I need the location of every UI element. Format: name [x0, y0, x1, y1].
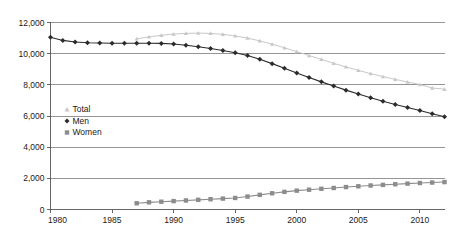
data-point-women: [356, 184, 360, 188]
data-point-women: [442, 180, 446, 184]
series-line-women: [137, 182, 445, 203]
x-tick-label: 1985: [103, 215, 122, 225]
gridlines: [51, 23, 445, 210]
y-axis-tick-labels: 02,0004,0006,0008,00010,00012,000: [19, 18, 45, 215]
data-point-men: [405, 105, 410, 110]
data-point-women: [344, 185, 348, 189]
series-women: [134, 180, 446, 206]
data-point-men: [60, 38, 65, 43]
x-tick-label: 2005: [349, 215, 368, 225]
x-tick-label: 2000: [287, 215, 306, 225]
data-point-men: [257, 57, 262, 62]
data-point-women: [331, 186, 335, 190]
data-point-men: [319, 79, 324, 84]
x-tick-label: 2010: [410, 215, 429, 225]
data-point-women: [233, 196, 237, 200]
data-point-women: [208, 197, 212, 201]
x-axis: [51, 210, 420, 214]
chart-container: 02,0004,0006,0008,00010,00012,000 198019…: [0, 0, 454, 241]
legend-marker-women: [65, 130, 69, 134]
line-chart: 02,0004,0006,0008,00010,00012,000 198019…: [0, 0, 454, 241]
data-point-women: [245, 194, 249, 198]
data-point-men: [122, 41, 127, 46]
y-tick-label: 6,000: [23, 111, 45, 121]
data-point-women: [295, 188, 299, 192]
legend-label-women: Women: [73, 127, 102, 137]
data-point-women: [282, 190, 286, 194]
y-axis: [47, 22, 51, 210]
chart-legend: TotalMenWomen: [65, 104, 102, 137]
data-point-men: [270, 61, 275, 66]
x-tick-label: 1995: [226, 215, 245, 225]
legend-label-total: Total: [73, 104, 91, 114]
data-point-women: [418, 181, 422, 185]
data-point-women: [307, 188, 311, 192]
data-point-women: [171, 199, 175, 203]
data-point-women: [270, 191, 274, 195]
data-point-men: [73, 39, 78, 44]
legend-label-men: Men: [73, 116, 90, 126]
data-point-men: [294, 70, 299, 75]
data-point-women: [221, 196, 225, 200]
legend-marker-total: [65, 107, 70, 112]
data-point-women: [393, 182, 397, 186]
y-tick-label: 8,000: [23, 80, 45, 90]
data-point-men: [48, 35, 53, 40]
series-line-total: [137, 33, 445, 89]
y-tick-label: 10,000: [19, 49, 45, 59]
data-point-men: [147, 41, 152, 46]
data-point-men: [183, 43, 188, 48]
data-point-men: [208, 46, 213, 51]
data-point-women: [196, 198, 200, 202]
data-point-men: [220, 48, 225, 53]
x-axis-tick-labels: 1980198519901995200020052010: [48, 215, 430, 225]
data-point-men: [344, 88, 349, 93]
data-point-men: [442, 114, 447, 119]
data-point-women: [381, 183, 385, 187]
data-point-men: [97, 41, 102, 46]
data-point-men: [282, 66, 287, 71]
y-tick-label: 2,000: [23, 173, 45, 183]
data-point-women: [184, 198, 188, 202]
data-point-men: [159, 41, 164, 46]
data-point-men: [110, 41, 115, 46]
data-point-men: [233, 50, 238, 55]
data-point-women: [134, 201, 138, 205]
data-point-women: [368, 183, 372, 187]
data-point-women: [430, 180, 434, 184]
data-point-men: [134, 41, 139, 46]
y-tick-label: 4,000: [23, 142, 45, 152]
data-point-women: [319, 187, 323, 191]
series-total: [135, 31, 447, 91]
x-tick-label: 1990: [164, 215, 183, 225]
x-tick-label: 1980: [48, 215, 67, 225]
data-point-men: [393, 102, 398, 107]
data-point-men: [380, 99, 385, 104]
data-point-women: [405, 181, 409, 185]
legend-marker-men: [65, 119, 70, 124]
data-point-women: [147, 200, 151, 204]
series-layer: [48, 31, 447, 205]
data-point-women: [159, 200, 163, 204]
data-point-women: [258, 193, 262, 197]
data-point-men: [368, 95, 373, 100]
data-point-men: [356, 92, 361, 97]
data-point-men: [331, 84, 336, 89]
data-point-men: [171, 42, 176, 47]
data-point-men: [85, 40, 90, 45]
data-point-men: [196, 44, 201, 49]
y-tick-label: 12,000: [19, 18, 45, 28]
data-point-men: [307, 75, 312, 80]
y-tick-label: 0: [40, 205, 45, 215]
data-point-men: [430, 111, 435, 116]
data-point-men: [417, 108, 422, 113]
